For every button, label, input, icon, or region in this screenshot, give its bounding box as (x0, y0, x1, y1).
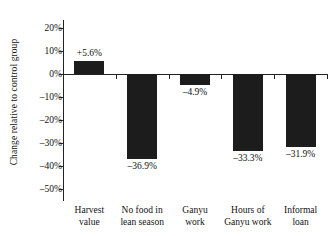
x-tick-mark (274, 74, 275, 79)
y-tick-label: 0% (0, 69, 62, 79)
y-tick-label: 10% (0, 46, 62, 56)
x-tick-mark (327, 74, 328, 79)
y-tick-label: –50% (0, 184, 62, 194)
y-tick-label: –20% (0, 115, 62, 125)
x-category-label-line: loan (268, 217, 330, 229)
x-tick-mark (169, 74, 170, 79)
y-tick-label: –30% (0, 138, 62, 148)
y-tick-mark (59, 28, 64, 29)
x-category-label-line: Informal (268, 205, 330, 217)
bar-value-label: –36.9% (107, 161, 177, 172)
x-tick-mark (221, 74, 222, 79)
bar-value-label: +5.6% (54, 48, 124, 59)
bar (180, 74, 210, 85)
y-tick-mark (59, 120, 64, 121)
bar (233, 74, 263, 151)
y-tick-mark (59, 74, 64, 75)
y-tick-label: 20% (0, 23, 62, 33)
bar (74, 61, 104, 74)
y-tick-label: –10% (0, 92, 62, 102)
bar-value-label: –31.9% (266, 149, 330, 160)
x-tick-mark (116, 74, 117, 79)
y-tick-label: –40% (0, 161, 62, 171)
bar (127, 74, 157, 159)
y-tick-mark (59, 166, 64, 167)
bar (286, 74, 316, 147)
bar-value-label: –4.9% (160, 87, 230, 98)
y-tick-mark (59, 189, 64, 190)
x-category-label: Informalloan (268, 205, 330, 228)
bar-chart: Change relative to control group 20%10%0… (0, 0, 330, 236)
y-tick-mark (59, 97, 64, 98)
y-tick-mark (59, 143, 64, 144)
